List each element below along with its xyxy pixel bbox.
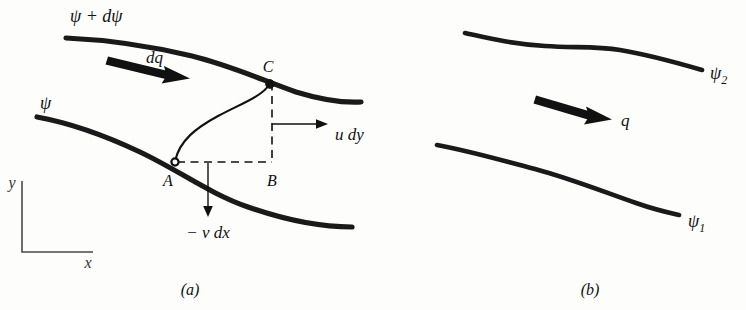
caption-panel-b: (b)	[581, 281, 600, 299]
streamline-figure: ψ + dψ ψ dq A B C u dy − v dx y x (a) ψ2…	[0, 0, 746, 310]
point-c-marker	[266, 80, 275, 89]
label-streamline-psi1-sub: 1	[699, 221, 705, 235]
label-streamline-psi2: ψ2	[710, 63, 727, 87]
streamline-lower-b	[437, 145, 679, 215]
label-point-b: B	[267, 172, 277, 189]
u-dy-arrow	[272, 119, 328, 129]
label-streamline-upper-a: ψ + dψ	[70, 6, 123, 26]
streamline-upper-a	[66, 38, 361, 102]
caption-panel-a: (a)	[181, 281, 200, 299]
label-streamline-psi1: ψ1	[688, 211, 705, 235]
streamline-upper-b	[465, 33, 702, 70]
label-axis-y: y	[6, 174, 16, 192]
axes-indicator	[22, 181, 93, 252]
label-point-a: A	[162, 172, 173, 189]
label-minus-v-dx: − v dx	[186, 223, 230, 242]
panel-a-group	[22, 38, 361, 252]
label-point-c: C	[263, 58, 274, 75]
panel-b-group	[437, 33, 702, 215]
q-arrow	[534, 96, 613, 125]
label-streamline-psi2-base: ψ	[710, 63, 722, 83]
label-q-arrow: q	[621, 111, 630, 130]
streamline-lower-a	[37, 117, 352, 227]
label-streamline-psi1-base: ψ	[688, 211, 700, 231]
point-a-marker	[171, 158, 178, 165]
path-a-to-c	[175, 85, 269, 161]
figure-root: ψ + dψ ψ dq A B C u dy − v dx y x (a) ψ2…	[0, 0, 746, 310]
label-axis-x: x	[83, 254, 91, 271]
label-streamline-lower-a: ψ	[40, 93, 52, 113]
label-streamline-psi2-sub: 2	[721, 73, 727, 87]
label-dq-arrow: dq	[146, 48, 164, 67]
label-u-dy: u dy	[335, 125, 364, 144]
